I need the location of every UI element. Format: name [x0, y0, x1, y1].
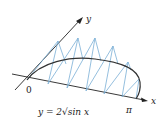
x-axis-arrow-icon	[141, 98, 148, 103]
x-axis-label: x	[151, 96, 156, 106]
y-axis	[15, 20, 80, 90]
solid-cross-section-diagram: y x 0 π y = 2√sin x	[0, 0, 162, 126]
x-axis	[12, 74, 144, 100]
equation-label: y = 2√sin x	[37, 107, 89, 117]
origin-label: 0	[26, 85, 32, 95]
triangle-cross-sections	[27, 38, 139, 99]
y-axis-label: y	[85, 14, 92, 24]
pi-label: π	[125, 105, 133, 115]
curve	[27, 58, 140, 99]
